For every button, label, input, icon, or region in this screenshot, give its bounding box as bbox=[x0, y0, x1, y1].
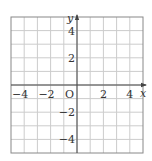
x-tick-label: 4 bbox=[126, 88, 133, 101]
origin-label: O bbox=[65, 88, 74, 101]
x-tick-label: −2 bbox=[38, 88, 54, 101]
y-tick-label: 2 bbox=[68, 52, 75, 65]
x-tick-label: −4 bbox=[12, 88, 28, 101]
x-axis-label: x bbox=[140, 87, 147, 100]
coordinate-plane: x y O −4−224 42−2−4 bbox=[0, 0, 152, 161]
y-tick-label: 4 bbox=[68, 25, 75, 38]
y-tick-label: −4 bbox=[59, 133, 75, 146]
y-tick-label: −2 bbox=[59, 106, 75, 119]
x-tick-label: 2 bbox=[100, 88, 107, 101]
axes bbox=[11, 14, 147, 153]
y-axis-label: y bbox=[66, 12, 74, 25]
